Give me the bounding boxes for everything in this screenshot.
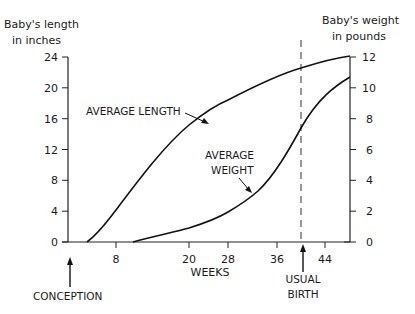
- usual-birth-label-line1: USUAL: [285, 273, 320, 285]
- left-axis-title-line2: in inches: [12, 34, 61, 47]
- x-tick-44: 44: [318, 253, 332, 266]
- left-axis-title-line1: Baby's length: [4, 18, 79, 31]
- right-tick-2: 2: [366, 205, 373, 218]
- right-tick-10: 10: [362, 82, 376, 95]
- left-y-axis: 24 20 16 12 8 4 0: [44, 51, 68, 249]
- x-tick-8: 8: [113, 253, 120, 266]
- conception-arrow-icon: [67, 257, 73, 265]
- average-weight-label-line2: WEIGHT: [211, 164, 254, 176]
- average-weight-label-line1: AVERAGE: [205, 149, 254, 161]
- left-tick-12: 12: [44, 144, 58, 157]
- right-axis-title-line2: in pounds: [332, 30, 386, 43]
- left-tick-0: 0: [51, 236, 58, 249]
- x-tick-20: 20: [182, 253, 196, 266]
- left-tick-16: 16: [44, 113, 58, 126]
- right-y-axis: 12 10 8 6 4 2 0: [344, 51, 376, 249]
- right-axis-title-line1: Baby's weight: [322, 14, 400, 27]
- right-tick-4: 4: [366, 174, 373, 187]
- right-tick-6: 6: [366, 144, 373, 157]
- conception-label: CONCEPTION: [33, 290, 102, 302]
- left-tick-4: 4: [51, 205, 58, 218]
- birth-arrow-icon: [300, 244, 306, 252]
- left-tick-20: 20: [44, 82, 58, 95]
- left-tick-8: 8: [51, 174, 58, 187]
- right-tick-12: 12: [362, 51, 376, 64]
- x-tick-36: 36: [270, 253, 284, 266]
- right-tick-8: 8: [366, 113, 373, 126]
- average-length-label: AVERAGE LENGTH: [86, 105, 181, 117]
- x-tick-28: 28: [221, 253, 235, 266]
- left-tick-24: 24: [44, 51, 58, 64]
- x-axis-title: WEEKS: [191, 266, 230, 279]
- growth-chart: Baby's length in inches Baby's weight in…: [0, 0, 415, 314]
- right-tick-0: 0: [366, 236, 373, 249]
- usual-birth-label-line2: BIRTH: [287, 288, 318, 300]
